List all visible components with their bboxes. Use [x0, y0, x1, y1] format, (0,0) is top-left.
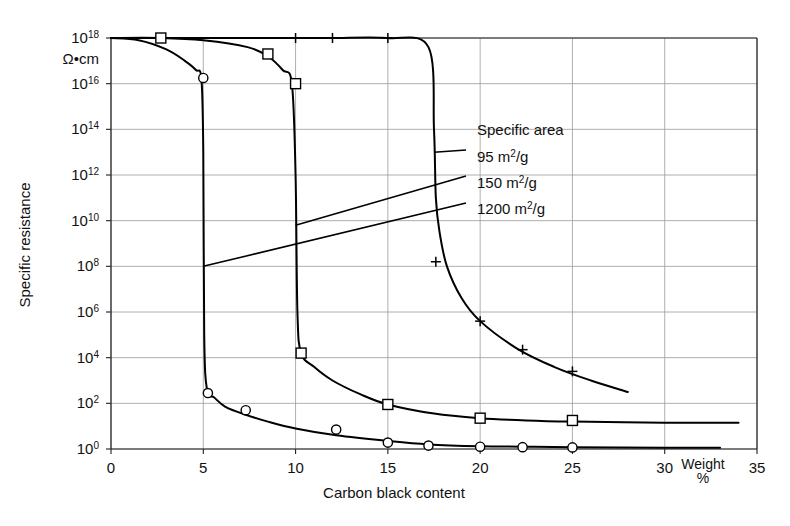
- y-tick-label: 1010: [71, 211, 99, 229]
- legend: Specific area95 m2/g150 m2/g1200 m2/g: [477, 121, 564, 217]
- marker-square: [475, 413, 485, 423]
- marker-circle: [203, 388, 212, 397]
- marker-circle: [199, 73, 208, 82]
- marker-plus: [327, 33, 337, 43]
- marker-square: [263, 49, 273, 59]
- y-axis-unit-label: Ω•cm: [63, 50, 99, 67]
- leader-line-0: [434, 150, 466, 152]
- y-tick-label: 100: [77, 440, 100, 458]
- specific-resistance-chart: 10010210410610810101012101410161018Ω•cm0…: [0, 0, 790, 526]
- marker-circle: [241, 406, 250, 415]
- y-tick-labels: 10010210410610810101012101410161018: [71, 29, 99, 458]
- x-tick-label: 5: [199, 459, 207, 476]
- marker-plus: [291, 33, 301, 43]
- y-tick-label: 108: [77, 257, 100, 275]
- leader-line-1: [296, 176, 466, 225]
- marker-square: [296, 348, 306, 358]
- x-axis-unit-label-percent: %: [697, 470, 709, 486]
- x-tick-label: 30: [656, 459, 673, 476]
- x-tick-label: 15: [380, 459, 397, 476]
- series-curve-2: [111, 38, 720, 448]
- marker-circle: [476, 442, 485, 451]
- legend-item-2: 1200 m2/g: [477, 200, 545, 218]
- chart-container: 10010210410610810101012101410161018Ω•cm0…: [0, 0, 790, 526]
- marker-square: [383, 399, 393, 409]
- y-tick-label: 106: [77, 303, 100, 321]
- marker-circle: [568, 443, 577, 452]
- y-tick-label: 102: [77, 394, 100, 412]
- x-tick-label: 35: [749, 459, 766, 476]
- x-tick-label: 0: [107, 459, 115, 476]
- x-axis-title: Carbon black content: [323, 484, 466, 501]
- legend-title: Specific area: [477, 121, 564, 138]
- x-tick-labels: 05101520253035: [107, 459, 766, 476]
- y-tick-label: 1012: [71, 166, 99, 184]
- marker-circle: [383, 438, 392, 447]
- y-tick-label: 104: [77, 348, 100, 366]
- marker-square: [156, 33, 166, 43]
- marker-circle: [332, 425, 341, 434]
- data-markers: [156, 33, 578, 452]
- y-axis-title: Specific resistance: [16, 182, 33, 307]
- marker-plus: [383, 33, 393, 43]
- x-tick-label: 25: [564, 459, 581, 476]
- legend-item-0: 95 m2/g: [477, 148, 528, 166]
- data-curves: [111, 37, 739, 448]
- leader-line-2: [203, 203, 466, 266]
- marker-plus: [431, 257, 441, 267]
- x-tick-label: 20: [472, 459, 489, 476]
- y-tick-label: 1016: [71, 74, 99, 92]
- x-tick-label: 10: [287, 459, 304, 476]
- y-tick-label: 1014: [71, 120, 99, 138]
- marker-circle: [518, 443, 527, 452]
- marker-circle: [424, 441, 433, 450]
- marker-square: [291, 79, 301, 89]
- legend-item-1: 150 m2/g: [477, 174, 537, 192]
- series-curve-0: [111, 37, 628, 392]
- marker-square: [567, 415, 577, 425]
- legend-leader-lines: [203, 150, 466, 266]
- y-tick-label: 1018: [71, 29, 99, 47]
